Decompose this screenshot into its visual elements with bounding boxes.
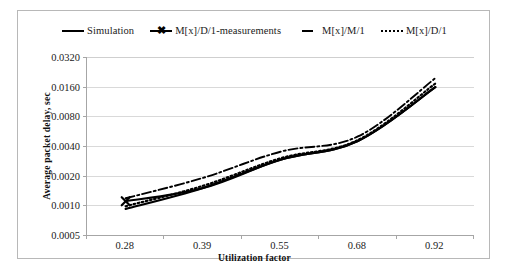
x-tick-label: 0.28 [116, 240, 134, 251]
legend-item-mxd1-measurements[interactable]: ✖ M[x]/D/1-measurements [150, 25, 281, 36]
x-tick-label: 0.39 [193, 240, 211, 251]
y-tick-label: 0.0080 [51, 111, 80, 122]
chart-legend: Simulation ✖ M[x]/D/1-measurements M[x]/… [18, 19, 491, 41]
series-line-m-x-d-1 [126, 84, 436, 207]
y-tick-label: 0.0040 [51, 141, 80, 152]
x-axis-title: Utilization factor [18, 253, 491, 263]
series-line-simulation [126, 87, 436, 209]
x-marker-icon: ✖ [157, 25, 166, 36]
dash-line-swatch [297, 25, 319, 36]
legend-item-simulation[interactable]: Simulation [62, 25, 134, 36]
legend-label: M[x]/M/1 [322, 25, 365, 36]
y-tick-label: 0.0320 [51, 52, 80, 63]
y-tick-label: 0.0010 [51, 200, 80, 211]
legend-item-mxm1[interactable]: M[x]/M/1 [297, 25, 365, 36]
solid-line-x-marker-swatch: ✖ [150, 25, 172, 36]
x-tick-mark [163, 235, 164, 239]
y-tick-label: 0.0020 [51, 170, 80, 181]
x-tick-label: 0.55 [270, 240, 288, 251]
x-tick-mark [86, 235, 87, 239]
plot-area: 0.03200.01600.00800.00400.00200.00100.00… [86, 57, 473, 235]
y-tick-label: 0.0160 [51, 81, 80, 92]
dotted-line-swatch [381, 25, 403, 36]
legend-item-mxd1[interactable]: M[x]/D/1 [381, 25, 447, 36]
legend-label: M[x]/D/1-measurements [175, 25, 281, 36]
x-tick-mark [318, 235, 319, 239]
series-lines [87, 57, 474, 235]
x-tick-label: 0.92 [425, 240, 443, 251]
legend-label: M[x]/D/1 [406, 25, 447, 36]
x-tick-mark [241, 235, 242, 239]
x-tick-label: 0.68 [348, 240, 366, 251]
series-line-m-x-d-1-measurements [126, 87, 436, 201]
series-line-m-x-m-1 [126, 78, 436, 198]
legend-label: Simulation [87, 25, 134, 36]
x-axis-line [86, 235, 473, 236]
y-tick-label: 0.0005 [51, 230, 80, 241]
x-tick-mark [396, 235, 397, 239]
x-tick-mark [473, 235, 474, 239]
solid-line-swatch [62, 25, 84, 36]
chart-figure: Simulation ✖ M[x]/D/1-measurements M[x]/… [17, 10, 490, 259]
